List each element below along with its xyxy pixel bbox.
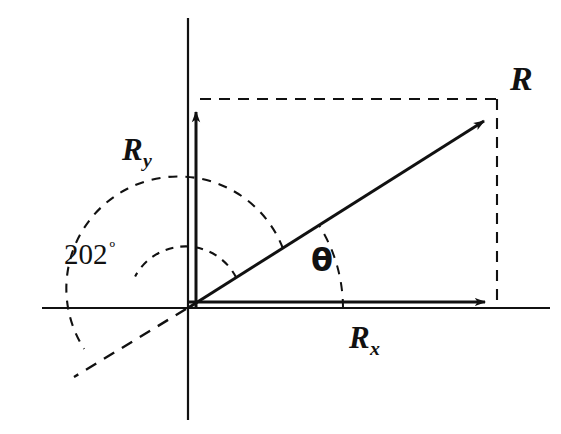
- vector-diagram-canvas: [0, 0, 561, 434]
- label-angle-theta: θ: [311, 244, 333, 276]
- opposite-direction-ray: [74, 309, 186, 377]
- label-angle-202-value: 202: [64, 238, 108, 270]
- label-angle-202-degrees: 202º: [64, 238, 113, 269]
- label-resultant-R: R: [510, 62, 533, 96]
- vector-diagram-figure: R Ry Rx θ 202º: [0, 0, 561, 434]
- angle-202-arc-inner: [135, 246, 236, 277]
- label-component-Ry-base: R: [122, 132, 143, 167]
- resultant-vector-R: [188, 121, 484, 308]
- label-component-Rx-sub: x: [370, 337, 380, 359]
- label-component-Rx: Rx: [349, 322, 380, 353]
- label-component-Ry-sub: y: [143, 149, 152, 171]
- degree-symbol-icon: º: [110, 238, 116, 258]
- label-component-Rx-base: R: [349, 320, 370, 355]
- label-component-Ry: Ry: [122, 134, 152, 165]
- label-resultant-R-text: R: [510, 60, 533, 97]
